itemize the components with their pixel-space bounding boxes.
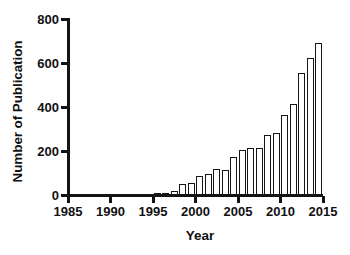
x-tick-mark	[237, 196, 240, 203]
bar	[273, 133, 280, 195]
y-tick-mark	[61, 62, 68, 65]
y-tick-mark	[61, 18, 68, 21]
bar	[162, 193, 169, 195]
y-tick-mark	[61, 150, 68, 153]
bar	[281, 115, 288, 195]
x-axis-title: Year	[55, 228, 345, 243]
bar	[213, 169, 220, 195]
x-tick-label: 2015	[298, 204, 348, 219]
bar	[307, 58, 314, 195]
y-tick-mark	[61, 106, 68, 109]
figure-caption-edge	[0, 248, 350, 255]
bar	[154, 193, 161, 195]
y-tick-label: 0	[0, 188, 59, 203]
x-tick-mark	[67, 196, 70, 203]
bar	[247, 148, 254, 195]
bar	[205, 174, 212, 195]
bar	[298, 73, 305, 195]
bar	[222, 170, 229, 195]
publication-bar-chart: Number of Publication 0200400600800 1985…	[0, 0, 350, 255]
bar	[171, 191, 178, 195]
x-tick-mark	[279, 196, 282, 203]
bar-series	[68, 19, 323, 195]
bar	[230, 157, 237, 196]
y-tick-label: 600	[0, 56, 59, 71]
bar	[264, 135, 271, 196]
bar	[239, 150, 246, 195]
x-tick-mark	[194, 196, 197, 203]
bar	[290, 104, 297, 195]
x-tick-mark	[152, 196, 155, 203]
y-tick-label: 800	[0, 12, 59, 27]
bar	[196, 176, 203, 195]
bar	[179, 184, 186, 195]
x-tick-mark	[109, 196, 112, 203]
bar	[315, 43, 322, 195]
bar	[188, 183, 195, 195]
bar	[256, 148, 263, 195]
x-tick-mark	[322, 196, 325, 203]
y-tick-label: 200	[0, 144, 59, 159]
y-tick-label: 400	[0, 100, 59, 115]
